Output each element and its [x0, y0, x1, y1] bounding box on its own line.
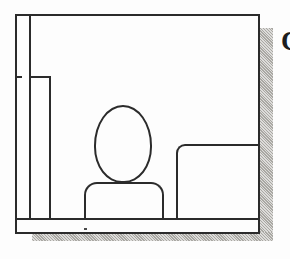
drop-shadow-right	[258, 28, 273, 240]
margin-caption-letter: C	[281, 28, 290, 54]
counter-desk-shape	[176, 144, 259, 220]
room-frame-bottom-edge	[15, 232, 260, 234]
partition-wall-inner	[49, 76, 51, 220]
partition-wall-outer	[29, 14, 31, 220]
partition-wall-crossbar	[29, 76, 51, 78]
wall-tick-mark	[15, 76, 22, 78]
drawing-canvas: C	[0, 0, 290, 259]
person-head-shape	[94, 105, 152, 183]
scan-speck	[84, 228, 87, 230]
person-body-shape	[84, 182, 164, 220]
room-frame-top-edge	[15, 14, 260, 16]
room-frame-left-edge	[15, 14, 17, 234]
partition-wall-base	[15, 218, 51, 220]
